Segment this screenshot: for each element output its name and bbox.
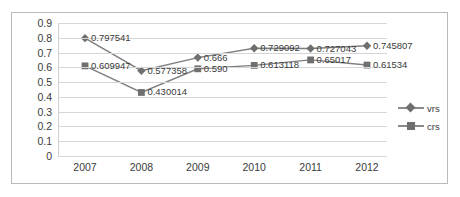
data-point-marker <box>138 89 145 96</box>
y-tick-label: 0.7 <box>26 48 52 58</box>
y-tick-label: 0.3 <box>26 107 52 117</box>
gridline <box>58 97 387 98</box>
gridline <box>58 141 387 142</box>
y-tick-label: 0.5 <box>26 77 52 87</box>
data-label: 0.727043 <box>317 44 357 54</box>
gridline <box>58 126 387 127</box>
y-tick-label: 0 <box>26 151 52 161</box>
y-tick-label: 0.2 <box>26 121 52 131</box>
data-point-marker <box>306 44 314 52</box>
x-axis: 200720082009201020112012 <box>58 161 387 181</box>
x-tick-label: 2012 <box>355 161 378 173</box>
data-label: 0.590 <box>204 64 228 74</box>
data-label: 0.430014 <box>147 87 187 97</box>
gridline <box>58 156 387 157</box>
crs-square-marker-icon <box>398 120 424 132</box>
data-point-marker <box>250 44 258 52</box>
chart-legend: vrs crs <box>398 99 450 135</box>
gridline <box>58 23 387 24</box>
data-label: 0.613118 <box>260 60 299 70</box>
y-tick-label: 0.6 <box>26 62 52 72</box>
data-label: 0.577358 <box>147 66 187 76</box>
x-tick-label: 2007 <box>73 161 96 173</box>
data-label: 0.609947 <box>91 61 131 71</box>
data-label: 0.65017 <box>317 55 351 65</box>
x-tick-label: 2011 <box>299 161 322 173</box>
gridline <box>58 112 387 113</box>
legend-label-vrs: vrs <box>427 103 440 114</box>
data-point-marker <box>307 57 314 64</box>
x-tick-label: 2009 <box>186 161 209 173</box>
data-label: 0.797541 <box>91 33 131 43</box>
y-tick-label: 0.1 <box>26 136 52 146</box>
plot-area: 0.7975410.5773580.6660.7290920.7270430.7… <box>58 23 387 156</box>
data-label: 0.729092 <box>260 43 300 53</box>
x-tick-label: 2010 <box>243 161 266 173</box>
legend-label-crs: crs <box>427 121 440 132</box>
chart-container: 0.90.80.70.60.50.40.30.20.10 0.7975410.5… <box>11 12 448 184</box>
y-axis: 0.90.80.70.60.50.40.30.20.10 <box>20 13 52 183</box>
y-tick-label: 0.8 <box>26 33 52 43</box>
legend-item-vrs[interactable]: vrs <box>398 99 450 117</box>
data-point-marker <box>194 53 202 61</box>
x-tick-label: 2008 <box>130 161 153 173</box>
data-label: 0.745807 <box>373 41 413 51</box>
vrs-diamond-marker-icon <box>398 102 424 114</box>
y-tick-label: 0.9 <box>26 18 52 28</box>
legend-item-crs[interactable]: crs <box>398 117 450 135</box>
data-label: 0.666 <box>204 53 228 63</box>
data-point-marker <box>363 42 371 50</box>
data-label: 0.61534 <box>373 60 407 70</box>
gridline <box>58 82 387 83</box>
y-tick-label: 0.4 <box>26 92 52 102</box>
